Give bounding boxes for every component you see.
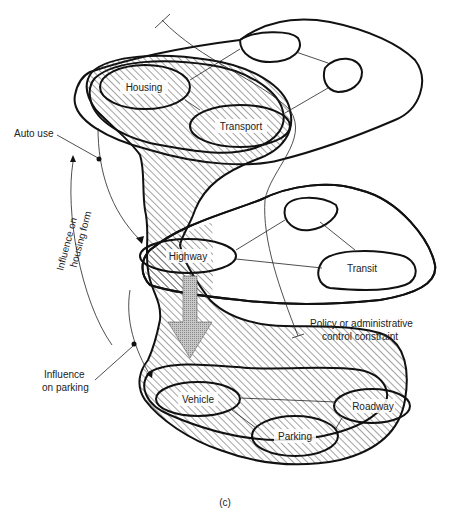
label-transport: Transport (220, 121, 263, 132)
label-vehicle: Vehicle (182, 394, 215, 405)
edge-node1-transit (320, 222, 355, 250)
label-highway: Highway (169, 251, 207, 262)
label-auto-use: Auto use (14, 128, 54, 139)
node-upper-right-2 (324, 59, 362, 92)
label-policy-2: control constraint (322, 331, 398, 342)
influence-housing-arrowhead (70, 155, 76, 162)
edge-transport-node2 (285, 88, 328, 113)
edge-highway-node1 (236, 220, 285, 250)
label-influence-parking-1: Influence (44, 369, 85, 380)
label-housing: Housing (126, 82, 163, 93)
label-policy-1: Policy or administrative (310, 318, 413, 329)
label-roadway: Roadway (352, 401, 394, 412)
edge-highway-transit (236, 259, 322, 268)
label-influence-parking-2: on parking (42, 382, 89, 393)
node-middle-right-1 (285, 198, 338, 230)
label-parking: Parking (278, 431, 312, 442)
auto-use-leader (57, 135, 98, 158)
figure-caption: (c) (219, 497, 231, 508)
edge-node1-node2 (296, 52, 328, 63)
influence-parking-leader (95, 346, 133, 380)
influence-parking-dot (132, 342, 137, 347)
diagram-canvas: Housing Transport Highway Transit Vehicl… (0, 0, 452, 516)
label-transit: Transit (347, 263, 377, 274)
node-upper-right-1 (240, 32, 300, 62)
